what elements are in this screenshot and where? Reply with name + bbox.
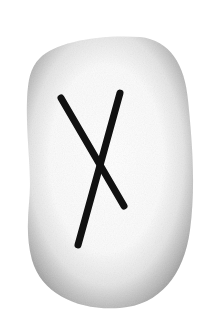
stone-shape: [27, 36, 193, 308]
rune-stone-illustration: [0, 0, 210, 334]
